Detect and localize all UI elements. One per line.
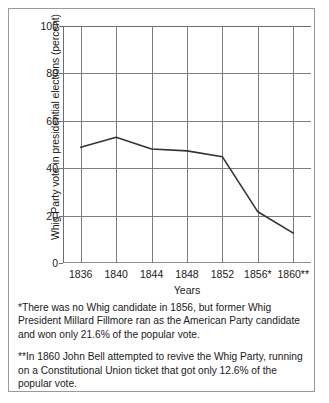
x-tick-label: 1852: [211, 269, 234, 280]
plot-area: 020406080100 183618401844184818521856*18…: [63, 26, 311, 263]
y-tick-label: 40: [46, 163, 58, 174]
x-tick-label: 1860**: [278, 269, 310, 280]
x-tick-label: 1844: [140, 269, 163, 280]
figure-frame: Whig Party vote in presidential election…: [8, 8, 315, 392]
x-tick-label: 1840: [104, 269, 127, 280]
x-axis-label: Years: [63, 284, 311, 296]
x-tick-label: 1848: [175, 269, 198, 280]
data-series-line: [63, 26, 311, 263]
x-tick-label: 1836: [69, 269, 92, 280]
y-tick-label: 100: [40, 21, 58, 32]
footnote-2: **In 1860 John Bell attempted to revive …: [18, 350, 308, 390]
footnotes: *There was no Whig candidate in 1856, bu…: [18, 301, 308, 390]
x-tick-label: 1856*: [244, 269, 271, 280]
line-chart: Whig Party vote in presidential election…: [9, 9, 314, 297]
footnote-1: *There was no Whig candidate in 1856, bu…: [18, 301, 308, 341]
y-tick-label: 60: [46, 116, 58, 127]
y-tick-label: 20: [46, 210, 58, 221]
y-tick-label: 80: [46, 68, 58, 79]
y-axis-label: Whig Party vote in presidential election…: [49, 13, 61, 241]
y-tick-label: 0: [52, 258, 58, 269]
y-tick-mark: [59, 263, 63, 264]
